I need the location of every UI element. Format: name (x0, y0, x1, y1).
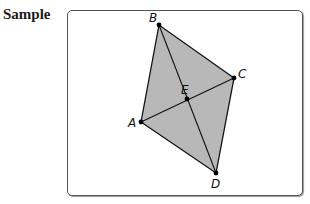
point-d (214, 171, 219, 176)
label-e: E (181, 83, 189, 97)
point-c (232, 76, 237, 81)
point-e (185, 97, 190, 102)
label-c: C (238, 67, 247, 81)
geometry-diagram: A B C D E (0, 0, 310, 204)
label-b: B (149, 11, 157, 25)
label-d: D (211, 177, 220, 191)
point-b (157, 23, 162, 28)
point-a (139, 120, 144, 125)
label-a: A (127, 116, 136, 130)
